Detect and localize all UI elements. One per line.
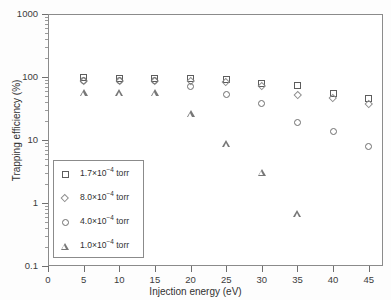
y-tick-label: 1 [33,198,38,208]
data-point-circle [330,128,337,135]
y-tick-minor [45,146,48,147]
y-tick-minor [45,206,48,207]
legend-marker-square [62,171,69,178]
x-tick-label: 15 [142,274,168,285]
legend-marker-triangle [61,243,69,250]
legend-label: 1.7×10−4 torr [80,167,129,179]
x-tick-label: 35 [284,274,310,285]
x-tick-label: 25 [213,274,239,285]
y-tick-minor [45,217,48,218]
y-tick-minor [45,110,48,111]
x-tick [48,266,49,272]
x-tick-label: 30 [249,274,275,285]
x-tick-label: 10 [106,274,132,285]
x-tick [262,266,263,272]
y-tick-label: 10 [27,135,38,145]
data-point-circle [294,119,301,126]
y-tick-minor [45,143,48,144]
y-tick-minor [45,165,48,166]
x-axis-title: Injection energy (eV) [0,286,391,297]
y-tick-minor [45,83,48,84]
y-tick-minor [45,24,48,25]
data-point-triangle [187,110,195,117]
x-tick [155,266,156,272]
x-tick-label: 5 [71,274,97,285]
data-point-triangle [293,210,301,217]
y-tick [42,203,48,204]
y-tick-minor [45,150,48,151]
legend-item: 4.0×10−4 torr [54,210,145,234]
y-tick-minor [45,28,48,29]
y-tick-minor [45,247,48,248]
y-tick-minor [45,213,48,214]
legend: 1.7×10−4 torr8.0×10−4 torr4.0×10−4 torr1… [53,160,144,258]
y-axis-title: Trapping efficiency (%) [11,61,22,201]
data-point-triangle [115,89,123,96]
legend-marker-diamond [61,194,69,202]
y-tick-minor [45,154,48,155]
y-tick-label: 1000 [17,9,38,19]
y-tick-minor [45,39,48,40]
y-tick [42,77,48,78]
x-tick [333,266,334,272]
y-tick-minor [45,20,48,21]
data-point-triangle [258,169,266,176]
data-point-circle [116,77,123,84]
y-tick-minor [45,121,48,122]
y-tick-minor [45,33,48,34]
legend-label: 4.0×10−4 torr [80,215,129,227]
y-tick-minor [45,184,48,185]
y-tick-minor [45,96,48,97]
legend-label: 1.0×10−4 torr [80,239,129,251]
figure: 0.11101001000 051015202530354045 Trappin… [0,0,391,300]
y-tick-minor [45,222,48,223]
legend-marker-circle [62,219,69,226]
data-point-square [294,82,301,89]
x-tick [369,266,370,272]
y-tick-minor [45,80,48,81]
legend-label: 8.0×10−4 torr [80,191,129,203]
x-tick [297,266,298,272]
legend-item: 8.0×10−4 torr [54,186,145,210]
y-tick-label: 0.1 [25,261,38,271]
y-tick-minor [45,87,48,88]
x-tick [119,266,120,272]
y-tick-minor [45,91,48,92]
y-tick-minor [45,173,48,174]
y-tick-minor [45,159,48,160]
y-tick-label: 100 [22,72,38,82]
data-point-triangle [80,89,88,96]
y-tick-minor [45,17,48,18]
x-tick-label: 40 [320,274,346,285]
y-tick-minor [45,209,48,210]
y-tick [42,140,48,141]
y-tick-minor [45,228,48,229]
x-tick [226,266,227,272]
legend-item: 1.0×10−4 torr [54,234,145,258]
y-tick-minor [45,102,48,103]
x-tick [191,266,192,272]
x-tick-label: 20 [178,274,204,285]
x-tick [84,266,85,272]
x-tick-label: 0 [35,274,61,285]
y-tick-minor [45,236,48,237]
y-tick [42,14,48,15]
y-tick-minor [45,58,48,59]
x-tick-label: 45 [356,274,382,285]
y-tick-minor [45,47,48,48]
legend-item: 1.7×10−4 torr [54,162,145,186]
data-point-triangle [151,89,159,96]
data-point-triangle [222,140,230,147]
